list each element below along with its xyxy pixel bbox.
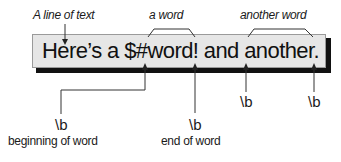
caption-beginning-of-word: beginning of word: [8, 134, 98, 148]
arrow-up-icon: [243, 63, 249, 92]
bracket-another-word: [248, 29, 313, 37]
boundary-token-beginning: \b: [55, 117, 68, 133]
boundary-token-4: \b: [308, 94, 321, 110]
bracket-a-word: [148, 29, 195, 37]
arrow-up-icon: [192, 63, 198, 113]
boundary-token-end: \b: [189, 117, 202, 133]
arrow-down-icon: [62, 24, 68, 45]
boundary-token-3: \b: [240, 94, 253, 110]
caption-end-of-word: end of word: [161, 134, 220, 148]
arrow-up-icon: [61, 63, 148, 114]
word-boundary-diagram: A line of text a word another word Here’…: [0, 0, 341, 162]
arrow-up-icon: [311, 63, 317, 92]
